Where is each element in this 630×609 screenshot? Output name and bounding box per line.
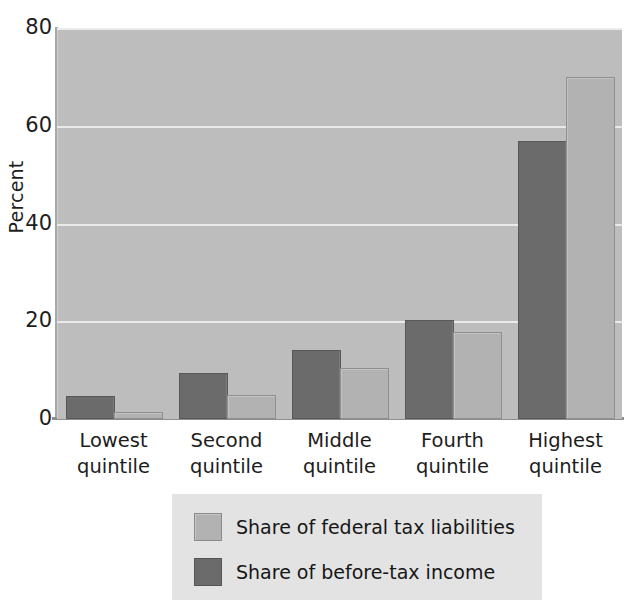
x-tick-label-line: quintile [396, 454, 509, 480]
x-tick-label-line: quintile [170, 454, 283, 480]
x-axis-category-labels: LowestquintileSecondquintileMiddlequinti… [57, 428, 622, 484]
y-axis-tick-labels: 020406080 [0, 0, 52, 609]
y-tick-label: 80 [6, 17, 52, 38]
legend-label: Share of federal tax liabilities [236, 516, 515, 538]
bar-before-tax-income [292, 350, 341, 419]
bar-federal-tax-liabilities [453, 332, 502, 419]
bar-group [396, 28, 509, 419]
bar-group [57, 28, 170, 419]
x-tick-label-line: Middle [283, 428, 396, 454]
legend-swatch-dark [194, 558, 222, 586]
y-tick-label: 20 [6, 310, 52, 331]
bar-chart-figure: Percent 020406080 LowestquintileSecondqu… [0, 0, 630, 609]
x-tick-label-line: Second [170, 428, 283, 454]
x-tick-label: Fourthquintile [396, 428, 509, 479]
x-tick-label: Lowestquintile [57, 428, 170, 479]
x-tick-label-line: quintile [283, 454, 396, 480]
x-tick-label: Highestquintile [509, 428, 622, 479]
x-tick-label-line: Lowest [57, 428, 170, 454]
x-tick-label-line: quintile [57, 454, 170, 480]
bar-federal-tax-liabilities [566, 77, 615, 419]
bar-group [170, 28, 283, 419]
x-tick-label-line: quintile [509, 454, 622, 480]
bar-federal-tax-liabilities [114, 412, 163, 419]
bar-federal-tax-liabilities [340, 368, 389, 419]
bar-before-tax-income [518, 141, 567, 419]
bar-before-tax-income [179, 373, 228, 419]
legend-item: Share of federal tax liabilities [194, 511, 515, 543]
y-tick-label: 0 [6, 408, 52, 429]
bar-before-tax-income [405, 320, 454, 419]
x-tick-label: Secondquintile [170, 428, 283, 479]
y-tick-label: 40 [6, 213, 52, 234]
legend-item: Share of before-tax income [194, 556, 495, 588]
bar-group [509, 28, 622, 419]
bar-before-tax-income [66, 396, 115, 419]
legend-swatch-light [194, 513, 222, 541]
x-tick-label-line: Highest [509, 428, 622, 454]
y-tick-label: 60 [6, 115, 52, 136]
legend-label: Share of before-tax income [236, 561, 495, 583]
chart-legend: Share of federal tax liabilitiesShare of… [172, 494, 542, 600]
plot-area [57, 28, 622, 419]
x-tick-label: Middlequintile [283, 428, 396, 479]
bar-group [283, 28, 396, 419]
x-tick-label-line: Fourth [396, 428, 509, 454]
bar-federal-tax-liabilities [227, 395, 276, 419]
